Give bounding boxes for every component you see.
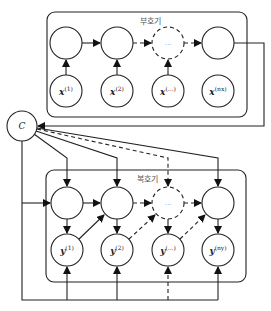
- input-label-2: x(2): [110, 85, 124, 97]
- input-label-4: x(nx): [209, 85, 226, 97]
- decoder-hidden-1: [51, 187, 83, 219]
- input-label-3: x(...): [160, 85, 176, 97]
- decoder-hidden-2: [101, 187, 133, 219]
- encoder-dots: ...: [165, 39, 172, 47]
- output-label-4: y(ny): [209, 244, 226, 256]
- decoder-hidden-4: [202, 187, 234, 219]
- encoder-hidden-2: [101, 27, 133, 59]
- encoder-decoder-diagram: 부호기 복호기 ... ... C x(1) x(2) x(...) x(nx)…: [0, 0, 271, 311]
- encoder-label: 부호기: [140, 15, 161, 26]
- input-label-1: x(1): [59, 85, 73, 97]
- encoder-box: [47, 12, 247, 117]
- output-label-1: y(1): [60, 244, 74, 256]
- decoder-label: 복호기: [137, 173, 158, 184]
- decoder-dots: ...: [165, 199, 172, 207]
- output-label-2: y(2): [110, 244, 124, 256]
- context-label: C: [19, 121, 26, 131]
- output-label-3: y(...): [160, 244, 176, 256]
- encoder-hidden-1: [50, 27, 82, 59]
- encoder-hidden-4: [202, 27, 234, 59]
